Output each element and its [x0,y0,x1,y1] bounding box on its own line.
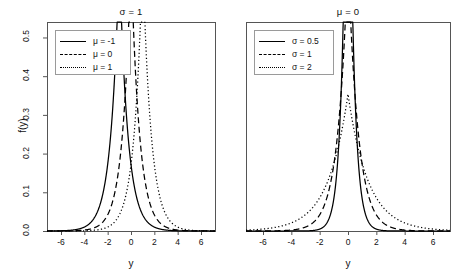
x-tick-label: 0 [119,237,143,247]
line-style-solid-icon [60,36,86,46]
legend-item: μ = 0 [56,47,130,60]
legend-item: μ = -1 [56,34,130,47]
legend-right-panel: σ = 0.5 σ = 1 σ = 2 [254,30,334,75]
legend-item: σ = 2 [255,60,333,73]
legend-label: σ = 0.5 [285,36,319,46]
y-tick-label: 0.0 [21,218,31,242]
line-style-dotted-icon [259,62,285,72]
x-tick-label: 2 [142,237,166,247]
panel-title-right: μ = 0 [308,6,388,17]
x-tick-label: 6 [189,237,213,247]
line-style-dotted-icon [60,62,86,72]
legend-label: μ = -1 [86,36,115,46]
x-tick-label: 6 [421,237,445,247]
x-tick-label: 4 [393,237,417,247]
x-tick-label: -6 [251,237,275,247]
legend-left-panel: μ = -1 μ = 0 μ = 1 [55,30,131,75]
x-tick-label: 4 [166,237,190,247]
legend-item: μ = 1 [56,60,130,73]
x-tick-label: -6 [49,237,73,247]
line-style-solid-icon [259,36,285,46]
x-tick-label: -2 [96,237,120,247]
x-axis-label-right: y [323,258,373,269]
y-tick-label: 0.3 [21,102,31,126]
x-tick-label: 0 [336,237,360,247]
x-tick-label: -4 [279,237,303,247]
x-tick-label: 2 [364,237,388,247]
line-style-dashed-icon [259,49,285,59]
x-tick-label: -2 [308,237,332,247]
y-tick-label: 0.1 [21,179,31,203]
legend-label: μ = 1 [86,62,112,72]
y-tick-label: 0.5 [21,24,31,48]
y-tick-label: 0.4 [21,63,31,87]
legend-item: σ = 1 [255,47,333,60]
x-tick-label: -4 [72,237,96,247]
panel-title-left: σ = 1 [91,6,171,17]
legend-item: σ = 0.5 [255,34,333,47]
legend-label: σ = 1 [285,49,312,59]
legend-label: σ = 2 [285,62,312,72]
line-style-dashed-icon [60,49,86,59]
distribution-figure: σ = 1 μ = 0 f(y) y y μ = -1 μ = 0 μ = 1 … [0,0,460,279]
x-axis-label-left: y [106,258,156,269]
y-tick-label: 0.2 [21,141,31,165]
curve-dotted [246,94,450,230]
legend-label: μ = 0 [86,49,112,59]
